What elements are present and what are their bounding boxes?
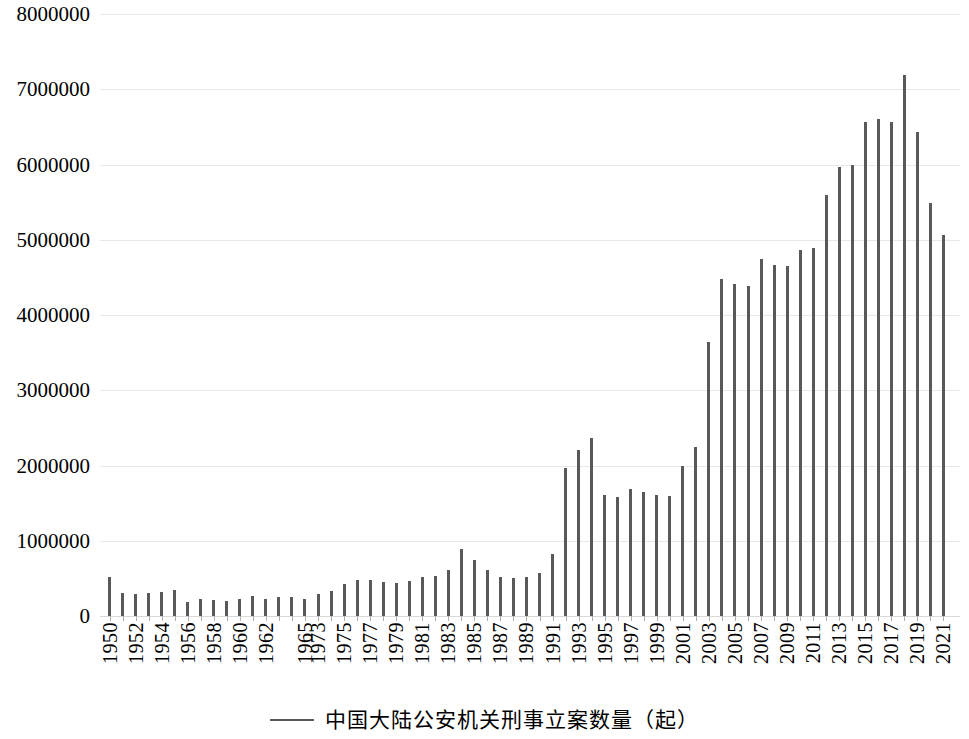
- x-tick: [149, 616, 150, 621]
- x-tick: [422, 616, 423, 621]
- x-tick-label: 2019: [907, 622, 927, 664]
- x-tick-label: 1958: [204, 622, 224, 664]
- x-tick: [266, 616, 267, 621]
- x-tick: [162, 616, 163, 621]
- x-tick: [852, 616, 853, 621]
- y-tick-label: 1000000: [17, 530, 91, 551]
- bar: [460, 549, 463, 616]
- bar: [447, 570, 450, 616]
- bar: [512, 578, 515, 616]
- y-tick-label: 2000000: [17, 455, 91, 476]
- x-tick: [930, 616, 931, 621]
- x-tick: [696, 616, 697, 621]
- bar: [264, 599, 267, 616]
- x-tick: [279, 616, 280, 621]
- x-tick: [657, 616, 658, 621]
- bar: [877, 119, 880, 616]
- x-tick: [683, 616, 684, 621]
- bar: [551, 554, 554, 616]
- bar: [382, 582, 385, 616]
- x-tick: [227, 616, 228, 621]
- x-tick: [370, 616, 371, 621]
- bar: [799, 250, 802, 616]
- bar: [681, 466, 684, 617]
- legend-line-marker-icon: [270, 719, 314, 721]
- bar: [173, 590, 176, 616]
- x-tick-label: 1956: [178, 622, 198, 664]
- bar: [903, 75, 906, 616]
- bar: [890, 122, 893, 616]
- y-tick-label: 5000000: [17, 229, 91, 250]
- x-tick-label: 1985: [464, 622, 484, 664]
- x-tick-label: 1960: [230, 622, 250, 664]
- bar: [694, 447, 697, 616]
- bar: [564, 468, 567, 616]
- x-tick: [774, 616, 775, 621]
- x-tick: [943, 616, 944, 621]
- bar: [343, 584, 346, 616]
- y-tick-label: 0: [80, 606, 91, 627]
- bar: [838, 167, 841, 616]
- x-tick-label: 2015: [855, 622, 875, 664]
- x-tick-label: 2011: [803, 622, 823, 663]
- bar: [720, 279, 723, 616]
- x-tick: [110, 616, 111, 621]
- x-tick: [318, 616, 319, 621]
- x-tick: [618, 616, 619, 621]
- x-tick-label: 2013: [829, 622, 849, 664]
- x-tick: [526, 616, 527, 621]
- x-tick: [305, 616, 306, 621]
- bar: [577, 450, 580, 616]
- bar: [199, 599, 202, 616]
- bar: [812, 248, 815, 616]
- x-tick: [761, 616, 762, 621]
- bar: [121, 593, 124, 616]
- x-tick: [644, 616, 645, 621]
- x-tick-label: 1995: [595, 622, 615, 664]
- bar: [408, 581, 411, 616]
- x-tick-label: 2021: [933, 622, 953, 664]
- x-tick: [566, 616, 567, 621]
- x-tick: [461, 616, 462, 621]
- x-tick-label: 1983: [438, 622, 458, 664]
- x-tick: [579, 616, 580, 621]
- x-tick: [670, 616, 671, 621]
- bar-chart: 0100000020000003000000400000050000006000…: [0, 0, 969, 739]
- bar: [616, 497, 619, 616]
- x-tick: [331, 616, 332, 621]
- bar: [290, 597, 293, 616]
- bar: [251, 596, 254, 616]
- x-tick-label: 1999: [647, 622, 667, 664]
- bars-layer: [100, 14, 960, 616]
- x-tick-label: 2003: [699, 622, 719, 664]
- x-tick: [240, 616, 241, 621]
- x-tick-label: 1952: [126, 622, 146, 664]
- x-tick: [540, 616, 541, 621]
- bar: [499, 577, 502, 616]
- x-tick-label: 1993: [569, 622, 589, 664]
- x-tick: [553, 616, 554, 621]
- y-tick-label: 4000000: [17, 305, 91, 326]
- x-tick-label: 1989: [516, 622, 536, 664]
- x-tick: [383, 616, 384, 621]
- x-tick-label: 2005: [725, 622, 745, 664]
- bar: [929, 203, 932, 616]
- bar: [773, 265, 776, 616]
- x-tick: [722, 616, 723, 621]
- bar: [108, 577, 111, 616]
- x-tick: [175, 616, 176, 621]
- bar: [642, 492, 645, 616]
- bar: [825, 195, 828, 616]
- y-tick-label: 6000000: [17, 154, 91, 175]
- bar: [733, 284, 736, 616]
- bar: [851, 165, 854, 617]
- bar: [747, 286, 750, 616]
- x-tick: [513, 616, 514, 621]
- x-tick: [878, 616, 879, 621]
- x-tick: [709, 616, 710, 621]
- y-tick-label: 7000000: [17, 79, 91, 100]
- bar: [186, 602, 189, 616]
- x-tick-label: 2017: [881, 622, 901, 664]
- bar: [238, 599, 241, 616]
- bar: [317, 594, 320, 616]
